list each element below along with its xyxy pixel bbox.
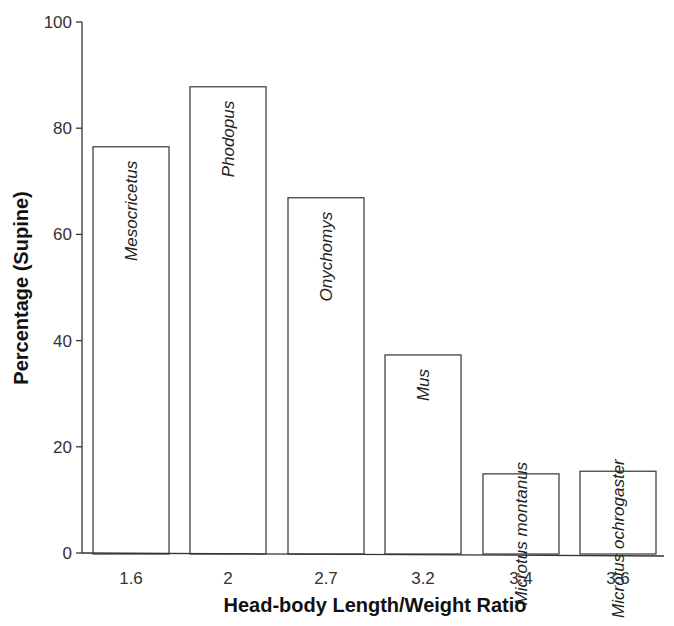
y-tick-label: 60 xyxy=(53,225,72,244)
bar-label: Phodopus xyxy=(219,100,238,177)
bar-label: Mesocricetus xyxy=(122,160,141,261)
bar-microtus-ochrogaster: Microtus ochrogaster xyxy=(580,458,656,618)
bar-phodopus: Phodopus xyxy=(190,87,266,554)
y-axis-title: Percentage (Supine) xyxy=(10,191,32,384)
x-axis: 1.622.73.23.43.6 xyxy=(82,553,664,588)
y-tick-label: 20 xyxy=(53,438,72,457)
x-axis-title: Head-body Length/Weight Ratio xyxy=(224,594,527,616)
y-tick-label: 80 xyxy=(53,119,72,138)
y-tick-label: 100 xyxy=(44,13,72,32)
bar-mesocricetus: Mesocricetus xyxy=(93,147,169,554)
x-tick-label: 2.7 xyxy=(314,569,338,588)
y-axis: 020406080100 xyxy=(44,13,82,563)
bar-label: Microtus ochrogaster xyxy=(609,458,628,618)
x-tick-label: 3.4 xyxy=(509,569,533,588)
bar-onychomys: Onychomys xyxy=(288,198,364,554)
bars: MesocricetusPhodopusOnychomysMusMicrotus… xyxy=(93,87,656,618)
x-tick-label: 3.6 xyxy=(606,569,630,588)
y-tick-label: 40 xyxy=(53,332,72,351)
x-tick-label: 3.2 xyxy=(411,569,435,588)
bar-mus: Mus xyxy=(385,355,461,554)
x-tick-label: 1.6 xyxy=(119,569,143,588)
y-tick-label: 0 xyxy=(63,544,72,563)
bar-label: Onychomys xyxy=(317,211,336,301)
bar-label: Mus xyxy=(414,368,433,401)
x-tick-label: 2 xyxy=(223,569,232,588)
bar-chart: 020406080100 MesocricetusPhodopusOnychom… xyxy=(0,0,674,626)
